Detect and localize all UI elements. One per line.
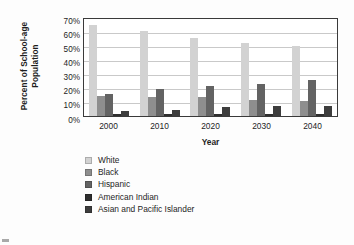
bar-asian-and-pacific-islander-2020 [222,107,230,115]
bar-group-2000 [84,19,135,116]
legend-label-hispanic: Hispanic [98,180,130,189]
x-tick-2030: 2030 [236,121,287,133]
legend-item-black: Black [85,167,194,177]
legend-item-asian-and-pacific-islander: Asian and Pacific Islander [85,205,194,215]
y-tick-30: 30% [64,74,80,82]
chart-figure: Percent of School-age Population 70%60%5… [0,0,354,245]
bar-asian-and-pacific-islander-2000 [121,111,129,115]
legend-swatch-asian-and-pacific-islander [85,206,92,213]
bar-white-2010 [140,31,148,116]
bar-american-indian-2040 [316,114,324,115]
legend-swatch-black [85,169,92,176]
legend-swatch-hispanic [85,181,92,188]
bar-american-indian-2030 [265,114,273,115]
x-tick-2040: 2040 [287,121,338,133]
y-tick-50: 50% [64,46,80,54]
bar-white-2000 [89,25,97,116]
bar-white-2040 [292,46,300,115]
bar-hispanic-2000 [105,94,113,115]
bar-asian-and-pacific-islander-2010 [172,110,180,116]
bar-hispanic-2040 [308,80,316,115]
bar-asian-and-pacific-islander-2040 [324,106,332,116]
y-tick-40: 40% [64,60,80,68]
bar-black-2000 [97,96,105,116]
bar-black-2040 [300,101,308,115]
x-axis-title: Year [83,137,338,147]
bar-black-2020 [198,97,206,115]
legend-item-american-indian: American Indian [85,192,194,202]
bar-groups [84,19,337,116]
bar-black-2010 [148,97,156,115]
bar-asian-and-pacific-islander-2030 [273,106,281,115]
y-axis-tick-labels: 70%60%50%40%30%20%10%0% [48,14,80,119]
legend-item-white: White [85,155,194,165]
bar-group-2040 [286,19,337,116]
x-tick-2000: 2000 [83,121,134,133]
y-tick-0: 0% [68,117,80,125]
y-tick-10: 10% [64,102,80,110]
bar-white-2030 [241,43,249,115]
legend-label-american-indian: American Indian [98,193,159,202]
bar-american-indian-2010 [164,114,172,115]
y-tick-60: 60% [64,32,80,40]
bar-hispanic-2030 [257,84,265,115]
bar-group-2010 [135,19,186,116]
x-tick-2020: 2020 [185,121,236,133]
bar-group-2020 [185,19,236,116]
legend-label-white: White [98,156,119,165]
bar-american-indian-2020 [214,114,222,115]
x-tick-2010: 2010 [134,121,185,133]
legend-label-black: Black [98,168,118,177]
plot-area [83,18,338,117]
legend-swatch-american-indian [85,194,92,201]
bar-hispanic-2020 [206,86,214,116]
bar-american-indian-2000 [113,114,121,115]
x-axis-tick-labels: 20002010202020302040 [83,121,338,133]
y-axis-title-text: Percent of School-age Population [19,8,41,124]
legend-label-asian-and-pacific-islander: Asian and Pacific Islander [98,205,194,214]
legend-item-hispanic: Hispanic [85,180,194,190]
bar-group-2030 [236,19,287,116]
legend-swatch-white [85,157,92,164]
chart-legend: WhiteBlackHispanicAmerican IndianAsian a… [85,155,194,215]
bar-black-2030 [249,100,257,116]
bar-hispanic-2010 [156,89,164,116]
scan-artifact [2,239,9,242]
y-axis-title: Percent of School-age Population [13,8,47,124]
y-tick-70: 70% [64,18,80,26]
y-tick-20: 20% [64,88,80,96]
bar-white-2020 [190,38,198,116]
